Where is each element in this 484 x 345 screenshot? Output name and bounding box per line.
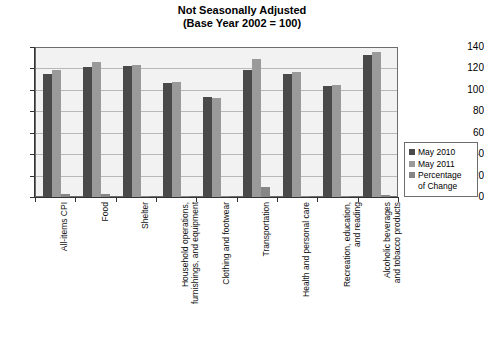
bar: [261, 187, 270, 197]
bar: [181, 196, 190, 197]
y-axis-tick-mark: [30, 90, 34, 91]
y-axis-tick-label: 80: [454, 106, 484, 116]
chart-subtitle: (Base Year 2002 = 100): [0, 17, 484, 30]
x-axis-label: All-items CPI: [60, 202, 70, 342]
x-axis-label: Clothing and footwear: [222, 202, 232, 342]
y-axis-tick-label: 100: [454, 85, 484, 95]
bar: [332, 85, 341, 197]
bar-group: [76, 48, 116, 197]
bar: [141, 196, 150, 197]
bar: [292, 72, 301, 197]
x-axis-label: Transportation: [262, 202, 272, 342]
chart-title: Not Seasonally Adjusted: [0, 4, 484, 17]
bar: [372, 52, 381, 197]
y-axis-tick-mark: [30, 197, 34, 198]
chart-title-block: Not Seasonally Adjusted (Base Year 2002 …: [0, 4, 484, 30]
x-axis-label: Shelter: [141, 202, 151, 342]
bar: [252, 59, 261, 197]
bar-group: [357, 48, 397, 197]
chart-container: Not Seasonally Adjusted (Base Year 2002 …: [0, 0, 484, 345]
bar-group: [116, 48, 156, 197]
bar: [212, 98, 221, 197]
bar: [381, 195, 390, 197]
bar-group: [36, 48, 76, 197]
y-axis-tick-label: 60: [454, 128, 484, 138]
y-axis-tick-label: 120: [454, 63, 484, 73]
bar: [341, 196, 350, 197]
legend-swatch-icon: [409, 172, 415, 178]
bar: [283, 74, 292, 197]
bar-group: [196, 48, 236, 197]
legend-item: Percentage of Change: [409, 170, 474, 191]
bar: [83, 67, 92, 197]
bar-group: [237, 48, 277, 197]
legend-label: Percentage of Change: [418, 170, 461, 191]
y-axis-tick-mark: [30, 68, 34, 69]
x-axis-labels: All-items CPIFoodShelterHousehold operat…: [35, 202, 398, 345]
y-axis-tick-mark: [30, 154, 34, 155]
bar: [323, 86, 332, 197]
y-axis-tick-mark: [30, 176, 34, 177]
x-axis-label: Recreation, education, and reading: [343, 202, 362, 342]
y-axis-tick-label: 140: [454, 42, 484, 52]
bar: [363, 55, 372, 197]
bar: [43, 74, 52, 197]
legend-label: May 2011: [418, 159, 455, 170]
x-axis-label: Alcoholic beverages and tobacco products: [383, 202, 402, 342]
legend-swatch-icon: [409, 149, 415, 155]
x-axis-label: Food: [101, 202, 111, 342]
bar: [172, 82, 181, 197]
y-axis-tick-mark: [30, 111, 34, 112]
bar: [163, 83, 172, 197]
x-axis-label: Household operations, furnishings, and e…: [181, 202, 200, 342]
bar-group: [277, 48, 317, 197]
legend-label: May 2010: [418, 147, 455, 158]
bar: [132, 65, 141, 197]
bar: [301, 196, 310, 197]
y-axis-tick-mark: [30, 133, 34, 134]
bar-groups: [36, 48, 397, 197]
bar: [243, 70, 252, 197]
bar: [123, 66, 132, 197]
bar: [101, 194, 110, 197]
legend-item: May 2011: [409, 159, 474, 170]
bar-group: [317, 48, 357, 197]
y-axis-tick-mark: [30, 47, 34, 48]
bar: [221, 196, 230, 197]
y-axis-line: [34, 47, 35, 198]
bar: [203, 97, 212, 197]
chart-legend: May 2010 May 2011 Percentage of Change: [404, 142, 478, 197]
x-axis-label: Health and personal care: [302, 202, 312, 342]
bar: [92, 62, 101, 197]
bar-group: [156, 48, 196, 197]
bar: [52, 70, 61, 197]
legend-item: May 2010: [409, 147, 474, 158]
legend-swatch-icon: [409, 161, 415, 167]
bar: [61, 194, 70, 197]
